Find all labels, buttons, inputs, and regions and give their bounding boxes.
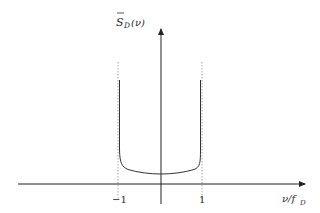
tick-label-neg1: −1 [112,194,127,205]
x-axis-label: ν/f D [282,193,306,207]
y-label-arg: (ν) [131,17,145,28]
y-label-main: S [116,16,124,29]
y-axis-label: S D (ν) [116,13,145,30]
doppler-spectrum-diagram: S D (ν) −1 1 ν/f D [0,0,320,213]
x-label-main: ν/f [282,193,297,204]
x-label-subscript: D [299,199,306,207]
y-label-subscript: D [123,21,130,30]
tick-label-1: 1 [199,194,205,205]
spectrum-curve [120,80,201,174]
